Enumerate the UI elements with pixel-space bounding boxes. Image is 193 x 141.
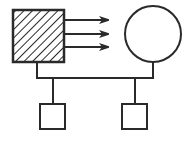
child2-square [122, 104, 147, 129]
arrow-group [64, 20, 108, 47]
pedigree-diagram [0, 0, 193, 141]
descent-lines [53, 78, 135, 104]
mother-circle [125, 6, 181, 62]
mating-line [37, 62, 153, 78]
father-affected-square [13, 10, 64, 62]
child1-square [40, 104, 65, 129]
